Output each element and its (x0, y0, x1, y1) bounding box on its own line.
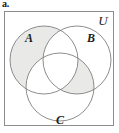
universe-box: U A B C (4, 11, 114, 126)
shaded-region-b-and-c-not-a (5, 12, 113, 125)
universe-label: U (98, 13, 109, 28)
set-label-b: B (86, 31, 95, 45)
set-label-c: C (56, 113, 65, 125)
part-label: a. (2, 0, 9, 10)
venn-svg: U A B C (5, 12, 113, 125)
set-label-a: A (24, 31, 33, 45)
venn-figure: a. (0, 0, 119, 133)
